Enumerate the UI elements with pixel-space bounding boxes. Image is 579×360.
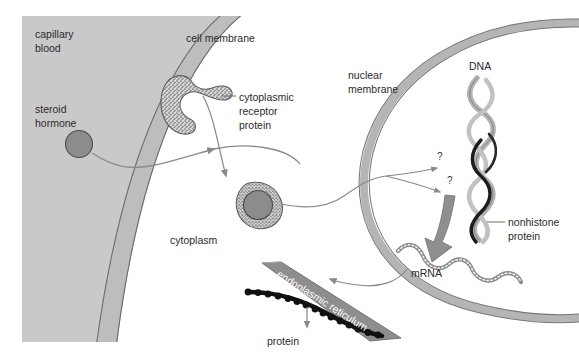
cytoplasmic-receptor-protein xyxy=(161,76,232,135)
label-question-mark-lower: ? xyxy=(447,175,453,186)
steroid-hormone-molecule xyxy=(66,131,93,158)
label-nuclear-membrane-line1: nuclear xyxy=(348,69,383,81)
transcription-arrow xyxy=(425,195,455,262)
receptor-to-complex-arrow xyxy=(203,96,226,176)
label-nonhistone-line1: nonhistone xyxy=(508,216,560,228)
label-capillary-blood-line1: capillary xyxy=(35,28,74,40)
label-mrna: mRNA xyxy=(411,267,442,279)
label-dna: DNA xyxy=(469,60,491,72)
label-cytoplasm: cytoplasm xyxy=(170,234,218,246)
steroid-hormone-diagram: capillary blood steroid hormone cell mem… xyxy=(0,0,579,360)
label-protein: protein xyxy=(267,335,299,347)
label-question-mark-upper: ? xyxy=(437,151,443,162)
label-nonhistone-line2: protein xyxy=(508,230,540,242)
label-nuclear-membrane-line2: membrane xyxy=(348,83,398,95)
label-capillary-blood-line2: blood xyxy=(35,42,61,54)
label-cytoplasmic-receptor-line2: receptor xyxy=(239,105,278,117)
label-cytoplasmic-receptor-line3: protein xyxy=(239,119,271,131)
label-cytoplasmic-receptor-line1: cytoplasmic xyxy=(239,91,294,103)
label-steroid-hormone-line1: steroid xyxy=(35,103,67,115)
label-steroid-hormone-line2: hormone xyxy=(35,117,77,129)
hormone-receptor-complex xyxy=(236,182,282,228)
dna-double-helix xyxy=(469,78,496,242)
label-cell-membrane: cell membrane xyxy=(186,32,255,44)
